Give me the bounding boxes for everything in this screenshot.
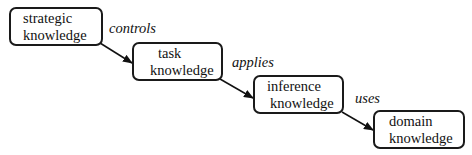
edge-label-controls: controls xyxy=(109,20,156,37)
node-label-line2: knowledge xyxy=(270,95,334,112)
node-label-line2: knowledge xyxy=(150,62,214,79)
node-inference-knowledge: inference knowledge xyxy=(253,75,344,114)
node-label-line1: task xyxy=(158,45,181,62)
edge-label-uses: uses xyxy=(355,90,380,107)
node-label-line2: knowledge xyxy=(389,130,453,147)
node-label-line1: domain xyxy=(389,113,433,130)
node-domain-knowledge: domain knowledge xyxy=(373,110,465,149)
node-label-line1: strategic xyxy=(23,10,72,27)
node-strategic-knowledge: strategic knowledge xyxy=(9,7,103,46)
arrow-applies xyxy=(220,79,253,98)
node-label-line1: inference xyxy=(267,78,321,95)
arrow-uses xyxy=(342,112,373,130)
arrow-controls xyxy=(100,43,132,63)
node-task-knowledge: task knowledge xyxy=(132,42,223,81)
edge-label-applies: applies xyxy=(232,54,274,71)
node-label-line2: knowledge xyxy=(23,27,87,44)
